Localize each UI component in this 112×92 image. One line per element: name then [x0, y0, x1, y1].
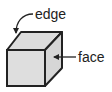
cube-front-face	[7, 50, 45, 86]
cube-diagram: edge face	[0, 0, 112, 92]
edge-arrow-icon	[16, 14, 33, 33]
face-label: face	[78, 49, 105, 65]
edge-label: edge	[35, 6, 66, 22]
cube	[7, 32, 62, 86]
